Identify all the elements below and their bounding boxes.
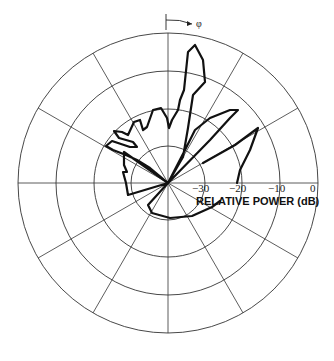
phi-direction-marker: φ xyxy=(166,14,202,30)
phi-label: φ xyxy=(196,18,202,29)
tick-minus30: −30 xyxy=(192,182,210,194)
radial-axis-title: RELATIVE POWER (dB) xyxy=(196,195,320,207)
radial-tick-labels: −30 −20 −10 0 xyxy=(192,182,316,194)
tick-minus20: −20 xyxy=(229,182,247,194)
tick-minus10: −10 xyxy=(268,182,286,194)
polar-chart: φ −30 −20 −10 0 RELATIVE POWER (dB) xyxy=(0,0,334,361)
tick-0: 0 xyxy=(310,182,316,194)
